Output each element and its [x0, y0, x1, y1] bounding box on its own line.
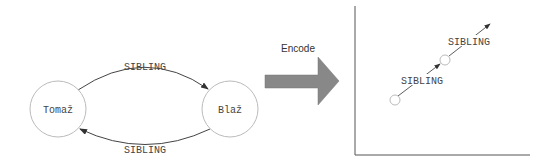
- node-label-blaz: Blaž: [218, 105, 242, 116]
- edge-label-bottom: SIBLING: [124, 145, 166, 156]
- vector-label-1: SIBLING: [401, 76, 443, 87]
- embedding-point-blaz: [440, 55, 450, 65]
- knowledge-graph: Tomaž Blaž SIBLING SIBLING: [30, 62, 258, 156]
- encode-arrow-icon: [265, 57, 339, 105]
- embedding-space: SIBLING SIBLING: [355, 6, 530, 155]
- encode-label: Encode: [281, 43, 315, 54]
- diagram-canvas: Tomaž Blaž SIBLING SIBLING Encode SIBLIN…: [0, 0, 552, 164]
- encode-transform: Encode: [265, 43, 339, 105]
- edge-label-top: SIBLING: [124, 62, 166, 73]
- embedding-point-tomaz: [390, 95, 400, 105]
- node-label-tomaz: Tomaž: [43, 105, 73, 116]
- edge-blaz-to-tomaz: [80, 129, 210, 145]
- vector-label-2: SIBLING: [448, 37, 490, 48]
